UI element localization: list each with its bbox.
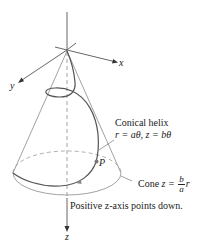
cone-right-edge [67,51,121,173]
point-p-marker [95,160,99,164]
z-axis-label: z [65,231,69,242]
point-p-label: P [99,157,105,168]
cone-fraction-denominator: a [179,185,184,194]
x-axis-label: x [119,57,123,68]
y-axis [22,50,67,80]
z-axis-note: Positive z-axis points down. [70,200,183,211]
cone-fraction: ba [178,175,185,194]
cone-left-edge [13,51,67,173]
cone-label-prefix: Cone [138,178,162,189]
helix-leader-line [99,140,114,150]
x-axis-back [55,47,67,50]
cone-label-lhs: z = [162,178,178,189]
y-axis-back [67,43,76,50]
y-axis-label: y [10,80,14,91]
cone-label: Cone z = bar [138,175,190,194]
cone-base-front [13,173,121,195]
conical-helix-curve [13,51,98,186]
cone-label-suffix: r [186,178,190,189]
x-axis-arrowhead [112,59,118,64]
helix-title: Conical helix [115,117,169,128]
y-axis-arrowhead [18,78,24,84]
cone-leader-line [121,176,132,181]
x-axis [67,50,114,62]
helix-equation: r = aθ, z = bθ [115,129,171,140]
